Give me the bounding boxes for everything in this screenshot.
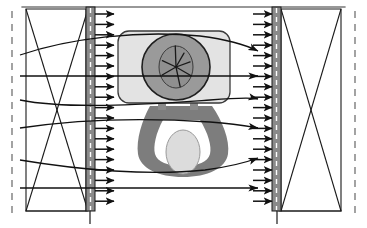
outlet-arrow-array	[253, 14, 272, 201]
right-wall-assembly	[272, 7, 355, 224]
figure-canvas	[0, 0, 367, 228]
airflow-schematic-svg	[0, 0, 367, 228]
inlet-arrow-array	[95, 14, 114, 201]
hair-whorl-spoke-1	[175, 46, 176, 67]
lap-oval	[166, 130, 200, 174]
